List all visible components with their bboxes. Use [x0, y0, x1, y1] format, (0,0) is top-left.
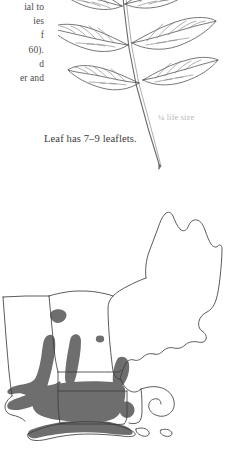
state-maine: [146, 212, 222, 354]
body-text-line: d: [0, 57, 46, 71]
body-text-line: er and: [0, 71, 46, 85]
body-text-line: ial to: [0, 0, 46, 14]
marthas-vineyard: [136, 428, 149, 436]
leaf-illustration: [58, 0, 228, 186]
body-text-line: ies: [0, 14, 46, 28]
range-shading: [7, 309, 134, 438]
state-new-york: [3, 297, 12, 396]
state-vermont: [49, 291, 113, 296]
scale-label: ¼ life size: [158, 113, 194, 122]
field-guide-page: ial to ies f 60). d er and: [0, 0, 228, 454]
range-map: [0, 186, 228, 454]
body-text-line: f: [0, 28, 46, 42]
nantucket: [160, 429, 172, 436]
cape-cod: [141, 387, 174, 417]
leaf-caption: Leaf has 7–9 leaflets.: [44, 133, 137, 144]
body-text-column: ial to ies f 60). d er and: [0, 0, 46, 85]
body-text-line: 60).: [0, 43, 46, 57]
